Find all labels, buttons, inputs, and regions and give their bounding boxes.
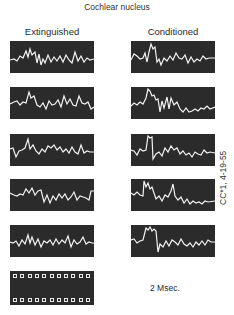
trace-waveform [131, 134, 215, 166]
trace-waveform [131, 179, 215, 211]
calibration-tick-square [86, 274, 90, 278]
calibration-tick-square [79, 274, 83, 278]
trace-waveform [10, 41, 94, 73]
trace-panel-conditioned-2 [131, 87, 215, 119]
trace-waveform [10, 87, 94, 119]
calibration-tick-square [13, 298, 17, 302]
calibration-tick-square [71, 298, 75, 302]
trace-waveform [10, 179, 94, 211]
calibration-tick-square [28, 274, 32, 278]
trace-panel-extinguished-5 [10, 225, 94, 257]
calibration-tick-square [42, 274, 46, 278]
trace-panel-extinguished-1 [10, 41, 94, 73]
specimen-date-label: CC*1, 4-19-55 [218, 151, 228, 205]
calibration-tick-square [42, 298, 46, 302]
trace-waveform [131, 225, 215, 257]
calibration-tick-square [79, 298, 83, 302]
trace-panel-conditioned-3 [131, 134, 215, 166]
trace-waveform [131, 87, 215, 119]
calibration-tick-square [64, 274, 68, 278]
trace-panel-extinguished-4 [10, 179, 94, 211]
calibration-tick-square [57, 298, 61, 302]
time-scale-label: 2 Msec. [150, 283, 180, 293]
trace-panel-conditioned-5 [131, 225, 215, 257]
calibration-tick-square [13, 274, 17, 278]
time-calibration-panel [10, 271, 94, 305]
calibration-tick-square [64, 298, 68, 302]
trace-waveform [10, 134, 94, 166]
column-label-conditioned: Conditioned [131, 26, 215, 37]
trace-panel-conditioned-1 [131, 41, 215, 73]
calibration-tick-square [35, 274, 39, 278]
calibration-tick-square [50, 274, 54, 278]
trace-panel-conditioned-4 [131, 179, 215, 211]
calibration-tick-square [20, 298, 24, 302]
trace-waveform [131, 41, 215, 73]
column-label-extinguished: Extinguished [10, 26, 94, 37]
calibration-tick-square [28, 298, 32, 302]
trace-panel-extinguished-3 [10, 134, 94, 166]
calibration-tick-square [57, 274, 61, 278]
calibration-tick-square [71, 274, 75, 278]
calibration-tick-square [20, 274, 24, 278]
trace-waveform [10, 225, 94, 257]
calibration-tick-square [35, 298, 39, 302]
calibration-tick-square [50, 298, 54, 302]
figure-title: Cochlear nucleus [0, 2, 234, 12]
trace-panel-extinguished-2 [10, 87, 94, 119]
calibration-tick-square [86, 298, 90, 302]
